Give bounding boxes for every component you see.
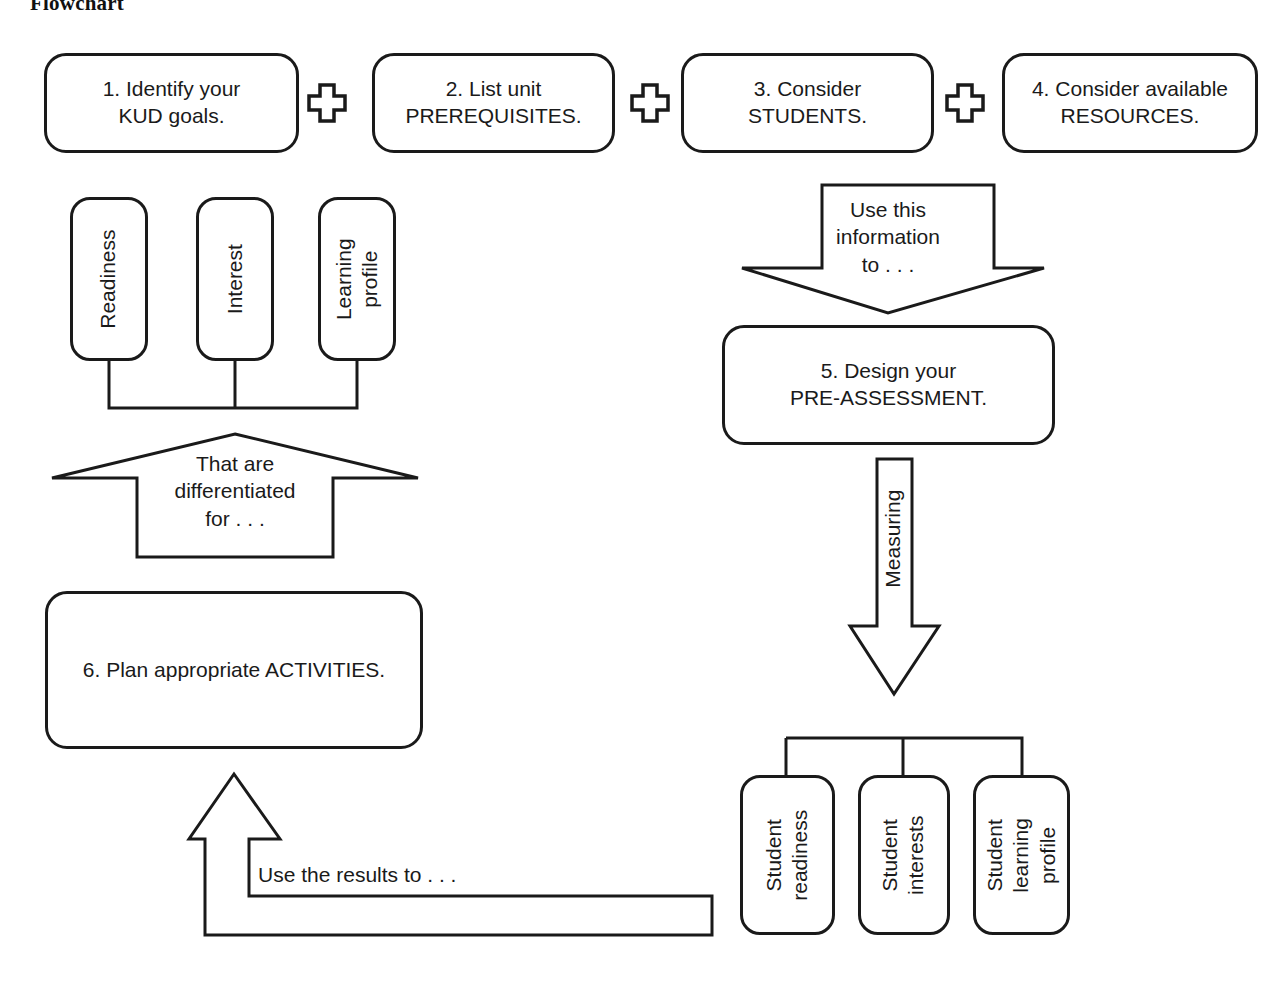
use-results-feedback-arrow: [189, 774, 712, 935]
trait-box-readiness-label: Readiness: [96, 229, 122, 328]
student-box-readiness[interactable]: Student readiness: [740, 775, 835, 935]
left-trait-bus: [109, 361, 357, 408]
step-box-3[interactable]: 3. Consider STUDENTS.: [681, 53, 934, 153]
plus-icon: [629, 82, 671, 124]
step-box-1[interactable]: 1. Identify your KUD goals.: [44, 53, 299, 153]
step-box-3-label: 3. Consider STUDENTS.: [748, 76, 867, 130]
plus-icon: [306, 82, 348, 124]
step-box-2-label: 2. List unit PREREQUISITES.: [405, 76, 581, 130]
plus-icon: [944, 82, 986, 124]
step-box-6-label: 6. Plan appropriate ACTIVITIES.: [83, 657, 385, 684]
step-box-5[interactable]: 5. Design your PRE-ASSESSMENT.: [722, 325, 1055, 445]
student-box-learning-profile-label: Student learning profile: [982, 818, 1061, 893]
step-box-6[interactable]: 6. Plan appropriate ACTIVITIES.: [45, 591, 423, 749]
student-box-readiness-label: Student readiness: [761, 809, 814, 900]
differentiated-arrow-label: That are differentiated for . . .: [150, 450, 320, 532]
student-box-interests-label: Student interests: [878, 815, 931, 894]
measuring-arrow-label: Measuring: [879, 464, 906, 614]
student-bus: [786, 738, 1022, 775]
student-box-interests[interactable]: Student interests: [858, 775, 950, 935]
step-box-5-label: 5. Design your PRE-ASSESSMENT.: [790, 358, 987, 412]
trait-box-readiness[interactable]: Readiness: [70, 197, 148, 361]
student-box-learning-profile[interactable]: Student learning profile: [973, 775, 1070, 935]
trait-box-interest-label: Interest: [222, 244, 248, 314]
page-title: Flowchart: [30, 0, 124, 16]
use-info-arrow-label: Use this information to . . .: [806, 196, 970, 278]
step-box-4-label: 4. Consider available RESOURCES.: [1032, 76, 1228, 130]
trait-box-interest[interactable]: Interest: [196, 197, 274, 361]
use-results-label: Use the results to . . .: [258, 863, 456, 887]
trait-box-learning-profile-label: Learning profile: [331, 238, 384, 320]
step-box-4[interactable]: 4. Consider available RESOURCES.: [1002, 53, 1258, 153]
step-box-2[interactable]: 2. List unit PREREQUISITES.: [372, 53, 615, 153]
step-box-1-label: 1. Identify your KUD goals.: [103, 76, 241, 130]
trait-box-learning-profile[interactable]: Learning profile: [318, 197, 396, 361]
flowchart-canvas: Flowchart 1. Identify your KUD goals. 2.…: [0, 0, 1282, 990]
